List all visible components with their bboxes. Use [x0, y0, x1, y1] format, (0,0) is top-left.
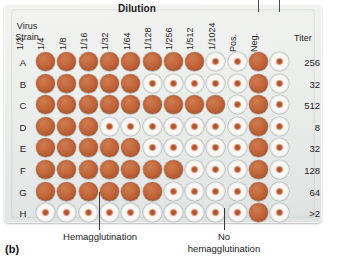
well-G3[interactable] — [79, 182, 98, 201]
well-D8[interactable] — [185, 117, 204, 136]
well-G8[interactable] — [185, 182, 204, 201]
dilution-title: Dilution — [118, 3, 156, 14]
caption-no-hemagglutination-line1: No — [186, 231, 262, 242]
well-E3[interactable] — [79, 138, 98, 157]
panel-letter: (b) — [5, 243, 19, 255]
well-F8[interactable] — [185, 160, 204, 179]
well-G10[interactable] — [228, 182, 247, 201]
well-A10[interactable] — [228, 52, 247, 71]
well-D1[interactable] — [36, 117, 55, 136]
well-G5[interactable] — [121, 182, 140, 201]
well-H6[interactable] — [143, 203, 162, 222]
well-B1[interactable] — [36, 74, 55, 93]
well-B11[interactable] — [249, 74, 268, 93]
well-D12[interactable] — [270, 117, 289, 136]
well-C10[interactable] — [228, 95, 247, 114]
well-F10[interactable] — [228, 160, 247, 179]
well-G2[interactable] — [57, 182, 76, 201]
well-A4[interactable] — [100, 52, 119, 71]
row-label-E: E — [14, 143, 32, 154]
row-label-G: G — [14, 187, 32, 198]
well-H10[interactable] — [228, 203, 247, 222]
caption-no-hemagglutination-line2: hemagglutination — [162, 243, 286, 254]
well-E10[interactable] — [228, 138, 247, 157]
well-D4[interactable] — [100, 117, 119, 136]
well-B9[interactable] — [206, 74, 225, 93]
well-D2[interactable] — [57, 117, 76, 136]
well-F7[interactable] — [164, 160, 183, 179]
titer-value-E: 32 — [290, 143, 320, 154]
titer-value-G: 64 — [290, 187, 320, 198]
row-label-A: A — [14, 57, 32, 68]
well-A8[interactable] — [185, 52, 204, 71]
titer-value-F: 128 — [290, 165, 320, 176]
well-H7[interactable] — [164, 203, 183, 222]
well-C7[interactable] — [164, 95, 183, 114]
no-hemagglutination-leader-line — [224, 208, 225, 230]
titer-value-A: 256 — [290, 57, 320, 68]
well-G4[interactable] — [100, 182, 119, 201]
well-G6[interactable] — [143, 182, 162, 201]
well-F3[interactable] — [79, 160, 98, 179]
hemagglutination-leader-line — [99, 192, 100, 230]
titer-value-H: >2 — [290, 208, 320, 219]
row-label-F: F — [14, 165, 32, 176]
well-F11[interactable] — [249, 160, 268, 179]
column-header-Neg: Neg. — [247, 38, 283, 52]
well-B8[interactable] — [185, 74, 204, 93]
well-A6[interactable] — [143, 52, 162, 71]
well-B4[interactable] — [100, 74, 119, 93]
well-C6[interactable] — [143, 95, 162, 114]
well-D10[interactable] — [228, 117, 247, 136]
well-F6[interactable] — [143, 160, 162, 179]
well-B3[interactable] — [79, 74, 98, 93]
titer-value-D: 8 — [290, 122, 320, 133]
well-A11[interactable] — [249, 52, 268, 71]
row-label-B: B — [14, 79, 32, 90]
titer-column-header: Titer — [294, 33, 312, 43]
virus-strain-label-line1: Virus — [10, 21, 44, 31]
well-A7[interactable] — [164, 52, 183, 71]
caption-hemagglutination: Hemagglutination — [37, 231, 163, 242]
well-D11[interactable] — [249, 117, 268, 136]
well-G9[interactable] — [206, 182, 225, 201]
well-H3[interactable] — [79, 203, 98, 222]
well-E6[interactable] — [143, 138, 162, 157]
titer-value-B: 32 — [290, 79, 320, 90]
well-G1[interactable] — [36, 182, 55, 201]
well-D3[interactable] — [79, 117, 98, 136]
row-label-H: H — [14, 208, 32, 219]
well-D6[interactable] — [143, 117, 162, 136]
well-B5[interactable] — [121, 74, 140, 93]
well-G12[interactable] — [270, 182, 289, 201]
well-D5[interactable] — [121, 117, 140, 136]
well-B10[interactable] — [228, 74, 247, 93]
control-tick-Neg — [279, 0, 280, 12]
well-C4[interactable] — [100, 95, 119, 114]
titer-value-C: 512 — [290, 100, 320, 111]
hemagglutination-assay-figure: Dilution Virus Strain Titer 1/21/41/81/1… — [0, 0, 338, 262]
well-C3[interactable] — [79, 95, 98, 114]
well-G11[interactable] — [249, 182, 268, 201]
well-H4[interactable] — [100, 203, 119, 222]
well-A3[interactable] — [79, 52, 98, 71]
well-B6[interactable] — [143, 74, 162, 93]
well-B12[interactable] — [270, 74, 289, 93]
well-B2[interactable] — [57, 74, 76, 93]
well-B7[interactable] — [164, 74, 183, 93]
row-label-C: C — [14, 100, 32, 111]
well-G7[interactable] — [164, 182, 183, 201]
well-F1[interactable] — [36, 160, 55, 179]
control-tick-Pos — [258, 0, 259, 12]
well-A1[interactable] — [36, 52, 55, 71]
well-D7[interactable] — [164, 117, 183, 136]
well-F4[interactable] — [100, 160, 119, 179]
row-label-D: D — [14, 122, 32, 133]
